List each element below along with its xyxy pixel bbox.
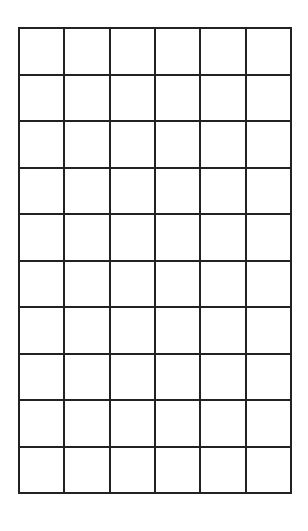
grid-cell (247, 262, 292, 309)
grid-cell (201, 262, 246, 309)
grid-cell (65, 122, 110, 169)
grid-cell (156, 169, 201, 216)
grid-cell (20, 76, 65, 123)
grid-cell (156, 308, 201, 355)
grid-cell (65, 355, 110, 402)
grid-cell (65, 169, 110, 216)
grid-cell (247, 76, 292, 123)
grid-diagram (18, 27, 292, 494)
grid-cell (20, 169, 65, 216)
grid-cell (156, 262, 201, 309)
grid-cell (20, 355, 65, 402)
grid-cell (20, 308, 65, 355)
grid-cell (247, 448, 292, 495)
grid-cell (156, 355, 201, 402)
grid-cell (201, 215, 246, 262)
grid-cell (201, 76, 246, 123)
grid-cell (65, 76, 110, 123)
grid-cell (247, 308, 292, 355)
grid-cell (201, 401, 246, 448)
grid-cell (201, 29, 246, 76)
grid-cell (201, 448, 246, 495)
grid-cell (201, 355, 246, 402)
grid-cell (201, 122, 246, 169)
grid-cell (111, 355, 156, 402)
grid-cell (201, 169, 246, 216)
grid-cell (201, 308, 246, 355)
grid-cell (20, 401, 65, 448)
grid-cell (111, 122, 156, 169)
grid-cell (111, 169, 156, 216)
grid-cell (20, 448, 65, 495)
grid-cell (20, 215, 65, 262)
grid-cell (111, 262, 156, 309)
grid-cell (156, 401, 201, 448)
grid-cell (65, 401, 110, 448)
grid-cell (111, 308, 156, 355)
grid-cell (65, 29, 110, 76)
grid-cell (247, 401, 292, 448)
grid-cell (156, 29, 201, 76)
grid-cell (247, 355, 292, 402)
grid-cell (156, 448, 201, 495)
grid-cell (247, 215, 292, 262)
grid-cell (65, 215, 110, 262)
grid-cell (156, 76, 201, 123)
grid-cell (156, 122, 201, 169)
grid-cell (111, 29, 156, 76)
grid-cell (111, 448, 156, 495)
grid-cell (247, 29, 292, 76)
grid-cell (111, 215, 156, 262)
grid-cell (111, 401, 156, 448)
grid-cell (65, 448, 110, 495)
grid-cell (20, 122, 65, 169)
grid-cell (247, 122, 292, 169)
grid-cell (20, 29, 65, 76)
grid-cell (111, 76, 156, 123)
grid-cell (156, 215, 201, 262)
grid-cell (247, 169, 292, 216)
grid-cell (20, 262, 65, 309)
grid-cell (65, 262, 110, 309)
grid-cell (65, 308, 110, 355)
